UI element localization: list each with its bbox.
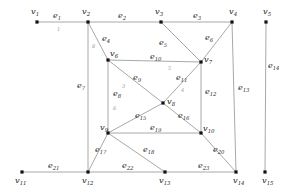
edge-label-e2: e2 [118, 11, 127, 21]
edge-weight-e9: 3 [122, 83, 125, 89]
edge-labels-group: e1e2e3e4e5e6e7e8e9e10e11e12e13e14e15e16e… [48, 11, 279, 171]
edge-label-sub-e16: 16 [183, 115, 190, 121]
node-label-sub-v13: 13 [164, 180, 171, 186]
edge-label-sub-e9: 9 [138, 77, 142, 83]
node-label-v1: v1 [31, 6, 39, 17]
node-label-v2: v2 [82, 6, 91, 17]
node-label-v6: v6 [110, 48, 119, 59]
edge-label-sub-e13: 13 [243, 87, 250, 93]
edge-weight-e10: 5 [168, 65, 171, 71]
node-label-sub-v3: 3 [160, 11, 164, 17]
node-label-sub-v8: 8 [172, 101, 176, 107]
node-dot-v2 [86, 20, 89, 23]
node-label-sub-v9: 9 [105, 127, 109, 133]
node-label-sub-v1: 1 [36, 11, 39, 17]
edge-label-sub-e10: 10 [155, 56, 162, 62]
node-label-sub-v4: 4 [233, 11, 238, 17]
edge-label-e20: e20 [213, 145, 225, 155]
edge-label-e21: e21 [48, 161, 59, 171]
node-label-sub-v5: 5 [268, 11, 272, 17]
node-dot-v6 [106, 58, 109, 61]
edge-label-sub-e2: 2 [122, 15, 127, 21]
edge-label-sub-e14: 14 [273, 65, 280, 71]
node-label-sub-v6: 6 [115, 53, 119, 59]
node-label-v14: v14 [233, 175, 245, 186]
node-label-v9: v9 [100, 122, 109, 133]
node-dot-v5 [264, 20, 267, 23]
edge-label-e1: e1 [53, 11, 61, 21]
edge-label-e3: e3 [193, 11, 202, 21]
node-label-v5: v5 [263, 6, 272, 17]
node-label-sub-v12: 12 [87, 180, 94, 186]
node-dot-v7 [199, 60, 202, 63]
edge-weight-e1: 1 [57, 26, 60, 32]
node-dot-v3 [159, 20, 162, 23]
edge-label-e16: e16 [178, 111, 190, 121]
edge-label-e8: e8 [113, 89, 122, 99]
edge-label-e11: e11 [176, 73, 187, 83]
node-dot-v12 [86, 170, 89, 173]
node-dot-v11 [20, 170, 23, 173]
edge-label-sub-e22: 22 [126, 165, 134, 171]
node-label-sub-v7: 7 [209, 59, 213, 65]
node-label-v3: v3 [155, 6, 164, 17]
edge-label-sub-e12: 12 [210, 91, 217, 97]
edge-label-sub-e11: 11 [181, 77, 188, 83]
edge-label-e10: e10 [150, 52, 162, 62]
node-dot-v15 [263, 170, 266, 173]
node-label-sub-v10: 10 [208, 128, 215, 134]
node-dot-v13 [163, 170, 166, 173]
edge-label-sub-e23: 23 [202, 165, 210, 171]
edge-label-sub-e5: 5 [164, 42, 168, 48]
node-dot-v14 [234, 170, 237, 173]
node-dot-v1 [35, 20, 38, 23]
edge-label-e23: e23 [198, 161, 210, 171]
edge-line-e14 [265, 22, 266, 172]
edge-label-e22: e22 [122, 161, 134, 171]
node-label-v8: v8 [167, 96, 176, 107]
edge-label-sub-e17: 17 [100, 149, 107, 155]
node-label-v12: v12 [82, 175, 94, 186]
node-label-v13: v13 [159, 175, 171, 186]
edge-weight-e4: 8 [92, 43, 95, 49]
edge-label-sub-e4: 4 [106, 38, 110, 44]
edge-label-sub-e8: 8 [118, 93, 122, 99]
edge-label-e6: e6 [205, 33, 214, 43]
node-label-sub-v15: 15 [267, 180, 274, 186]
node-label-sub-v14: 14 [238, 180, 245, 186]
node-label-sub-v2: 2 [86, 11, 91, 17]
edge-weight-e11: 4 [180, 87, 184, 93]
edge-line-e18 [108, 133, 165, 172]
edge-label-e9: e9 [133, 73, 142, 83]
node-label-v10: v10 [203, 123, 215, 134]
graph-canvas: v1v2v3v4v5v6v7v8v9v10v11v12v13v14v15 e1e… [0, 0, 285, 195]
edge-label-e13: e13 [238, 83, 250, 93]
edge-label-e19: e19 [150, 123, 162, 133]
node-dot-v4 [230, 20, 233, 23]
edge-label-sub-e3: 3 [198, 15, 202, 21]
node-label-sub-v11: 11 [20, 180, 27, 186]
edge-label-e4: e4 [102, 34, 110, 44]
edge-label-sub-e7: 7 [82, 85, 86, 91]
node-label-v15: v15 [262, 175, 274, 186]
edge-label-sub-e20: 20 [217, 149, 225, 155]
edge-label-e18: e18 [143, 145, 155, 155]
node-label-v11: v11 [15, 175, 27, 186]
edge-label-sub-e6: 6 [210, 37, 214, 43]
edge-label-sub-e15: 15 [140, 115, 147, 121]
edge-label-e12: e12 [205, 87, 217, 97]
edge-label-sub-e21: 21 [52, 165, 60, 171]
edge-label-e14: e14 [268, 61, 279, 71]
node-dot-v8 [161, 101, 164, 104]
edge-label-sub-e1: 1 [58, 15, 61, 21]
edge-label-sub-e19: 19 [155, 127, 162, 133]
edge-weight-e8: 6 [113, 105, 117, 111]
edge-label-sub-e18: 18 [148, 149, 155, 155]
edge-label-e7: e7 [77, 81, 86, 91]
edge-label-e5: e5 [159, 38, 168, 48]
graph-figure: v1v2v3v4v5v6v7v8v9v10v11v12v13v14v15 e1e… [0, 0, 285, 195]
edge-line-e13 [232, 22, 236, 172]
node-label-v7: v7 [204, 54, 213, 65]
node-label-v4: v4 [229, 6, 238, 17]
